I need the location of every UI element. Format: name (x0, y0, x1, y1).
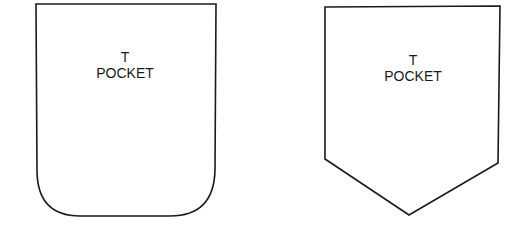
pointed-pocket-label: T POCKET (384, 52, 442, 84)
label-line-2: POCKET (384, 68, 442, 84)
pointed-pocket-outline (325, 6, 500, 215)
label-line-1: T (384, 52, 442, 68)
label-line-1: T (96, 49, 154, 65)
rounded-pocket-outline (36, 4, 216, 216)
rounded-pocket-label: T POCKET (96, 49, 154, 81)
label-line-2: POCKET (96, 65, 154, 81)
pocket-diagrams (0, 0, 529, 234)
